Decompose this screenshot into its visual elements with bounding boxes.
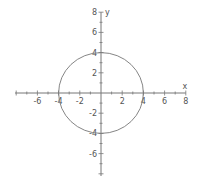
x-tick-label: 2 — [120, 97, 125, 106]
tick-labels: -6-4-224688642-2-4-6 — [33, 8, 188, 158]
axes — [15, 12, 186, 176]
x-tick-label: 6 — [162, 97, 167, 106]
plot-canvas: -6-4-224688642-2-4-6 x y — [0, 0, 198, 180]
x-tick-label: -6 — [33, 97, 41, 106]
y-axis-label: y — [105, 8, 110, 17]
x-tick-label: -2 — [76, 97, 84, 106]
y-tick-label: -6 — [89, 150, 97, 159]
y-tick-label: -2 — [89, 109, 97, 118]
y-tick-label: 6 — [92, 28, 97, 37]
y-tick-label: 8 — [92, 8, 97, 17]
y-tick-label: -4 — [89, 129, 97, 138]
x-tick-label: 8 — [183, 97, 188, 106]
circle-plot: -6-4-224688642-2-4-6 x y — [0, 0, 198, 180]
y-tick-label: 2 — [92, 69, 97, 78]
x-axis-label: x — [182, 82, 187, 91]
